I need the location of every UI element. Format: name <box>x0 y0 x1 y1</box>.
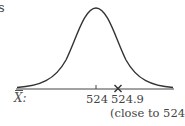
x-axis-label: X: <box>14 91 27 105</box>
observed-annotation: (close to 524) <box>110 106 185 120</box>
normal-curve <box>17 8 173 88</box>
observed-tick-label: 524.9 <box>111 92 144 106</box>
overline <box>15 90 23 91</box>
mean-tick-label: 524 <box>86 92 108 106</box>
